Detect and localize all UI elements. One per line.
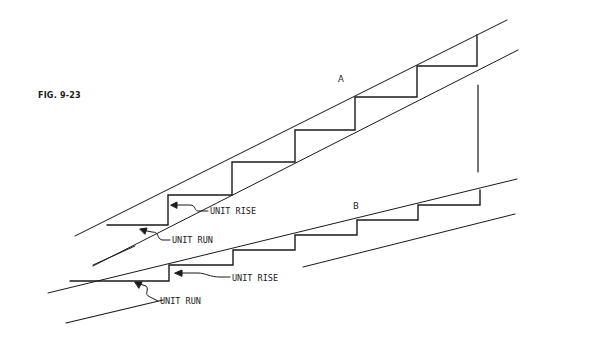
stair-a-label: A	[338, 74, 344, 84]
stair-a-unit-rise-label: UNIT RISE	[210, 206, 256, 216]
stair-a	[75, 20, 518, 266]
stair-b-unit-run-label: UNIT RUN	[160, 296, 201, 306]
stair-b-run-arrow-icon	[135, 282, 142, 288]
stair-b-steps	[70, 190, 480, 281]
stair-b-rise-arrow-icon	[175, 270, 182, 276]
stair-a-pitch-line-upper	[75, 20, 507, 236]
stair-b-pitch-line-lower-right	[303, 214, 515, 267]
stair-b-pitch-line-upper	[48, 179, 517, 293]
stair-b-pitch-line-lower	[66, 300, 163, 323]
stair-b-rise-leader	[177, 273, 230, 277]
stair-a-run-arrow-icon	[140, 228, 147, 234]
stair-b-label: B	[353, 201, 359, 211]
stair-a-rise-arrow-icon	[171, 202, 177, 208]
stair-b-unit-rise-label: UNIT RISE	[232, 273, 278, 283]
stair-b-segment-left	[93, 246, 135, 265]
stair-a-unit-run-label: UNIT RUN	[172, 235, 213, 245]
stair-b	[48, 179, 517, 323]
stair-diagram: A UNIT RISE UNIT RUN B UNIT RISE UNIT RU…	[0, 0, 594, 337]
stair-a-steps	[107, 35, 477, 225]
